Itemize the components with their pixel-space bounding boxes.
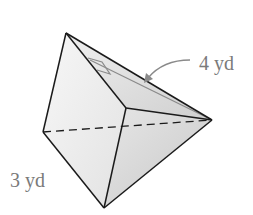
base-edge-label: 3 yd bbox=[10, 169, 45, 192]
annotation-arrow bbox=[148, 60, 190, 78]
slant-height-label: 4 yd bbox=[199, 52, 234, 75]
pyramid-diagram: 4 yd 3 yd bbox=[0, 0, 253, 215]
